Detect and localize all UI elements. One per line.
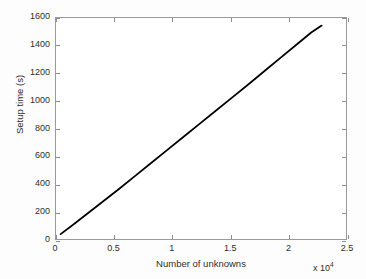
x-tick-mark	[231, 235, 232, 239]
y-tick-mark	[56, 213, 60, 214]
y-tick-mark	[56, 45, 60, 46]
y-tick-mark	[56, 18, 60, 19]
y-tick-mark	[342, 241, 346, 242]
x-tick-mark	[289, 18, 290, 22]
y-tick-label: 600	[4, 151, 50, 160]
multiplier-exponent: 4	[330, 261, 334, 268]
y-tick-mark	[342, 101, 346, 102]
x-axis-multiplier-label: x 104	[313, 263, 334, 273]
x-tick-mark	[231, 18, 232, 22]
y-tick-label: 1600	[4, 12, 50, 21]
y-tick-mark	[342, 213, 346, 214]
x-tick-label: 0.5	[107, 244, 120, 253]
y-tick-label: 1000	[4, 96, 50, 105]
x-tick-label: 1	[169, 244, 174, 253]
x-tick-label: 2	[286, 244, 291, 253]
data-line-svg	[56, 18, 346, 239]
y-tick-mark	[342, 129, 346, 130]
x-tick-label: 0	[52, 244, 57, 253]
y-tick-mark	[56, 185, 60, 186]
y-tick-label: 1200	[4, 68, 50, 77]
x-tick-mark	[56, 235, 57, 239]
y-tick-label: 1400	[4, 40, 50, 49]
y-tick-mark	[342, 185, 346, 186]
y-tick-label: 0	[4, 235, 50, 244]
y-tick-mark	[56, 157, 60, 158]
x-tick-mark	[348, 235, 349, 239]
y-tick-mark	[56, 73, 60, 74]
y-tick-mark	[56, 101, 60, 102]
x-tick-mark	[348, 18, 349, 22]
figure-container: Setup time (s) 0200400600800100012001400…	[0, 0, 366, 279]
y-tick-label: 200	[4, 207, 50, 216]
x-tick-label: 1.5	[224, 244, 237, 253]
x-tick-mark	[114, 18, 115, 22]
x-tick-label: 2.5	[341, 244, 354, 253]
x-tick-mark	[114, 235, 115, 239]
x-tick-mark	[172, 235, 173, 239]
y-tick-label: 800	[4, 124, 50, 133]
x-axis-label: Number of unknowns	[55, 258, 347, 269]
x-tick-mark	[56, 18, 57, 22]
y-tick-mark	[56, 129, 60, 130]
plot-area	[55, 17, 347, 240]
y-tick-label: 400	[4, 179, 50, 188]
y-tick-mark	[56, 241, 60, 242]
y-tick-mark	[342, 157, 346, 158]
series-line-setup-time	[61, 26, 322, 235]
y-tick-mark	[342, 18, 346, 19]
x-tick-mark	[289, 235, 290, 239]
x-tick-mark	[172, 18, 173, 22]
y-tick-mark	[342, 73, 346, 74]
multiplier-text: x 10	[313, 263, 330, 273]
y-tick-mark	[342, 45, 346, 46]
